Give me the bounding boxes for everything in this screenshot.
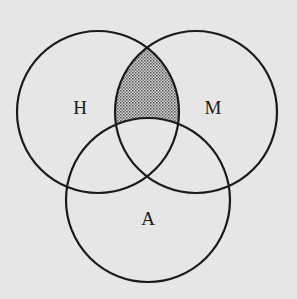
venn-diagram: H M A bbox=[0, 0, 297, 299]
set-h-label: H bbox=[73, 97, 87, 118]
set-m-label: M bbox=[205, 97, 222, 118]
shaded-region bbox=[0, 0, 297, 299]
set-a-label: A bbox=[141, 208, 155, 229]
venn-svg: H M A bbox=[0, 0, 297, 299]
